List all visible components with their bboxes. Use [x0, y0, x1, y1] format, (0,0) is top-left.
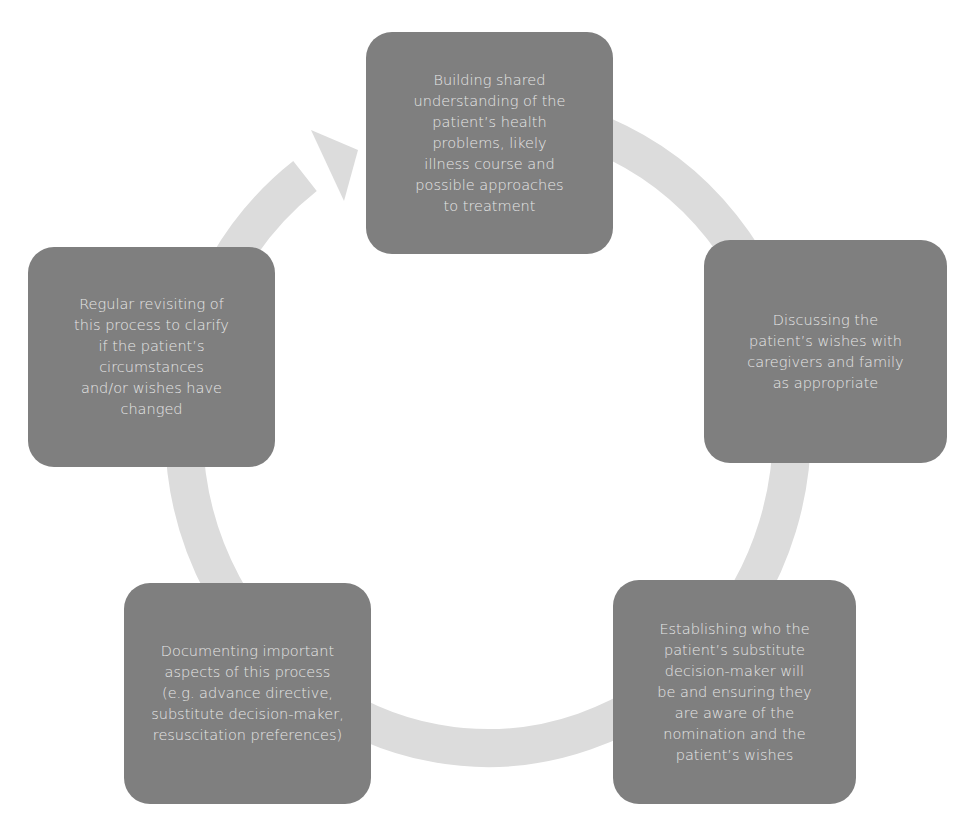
step-text: Establishing who the patient’s substitut… [657, 619, 811, 766]
step-shared-understanding: Building shared understanding of the pat… [366, 32, 613, 254]
step-text: Regular revisiting of this process to cl… [74, 294, 229, 420]
step-text: Building shared understanding of the pat… [414, 70, 566, 217]
step-documenting: Documenting important aspects of this pr… [124, 583, 371, 804]
step-substitute-decision-maker: Establishing who the patient’s substitut… [613, 580, 856, 804]
step-text: Documenting important aspects of this pr… [151, 641, 344, 746]
step-discuss-wishes: Discussing the patient’s wishes with car… [704, 240, 947, 463]
step-text: Discussing the patient’s wishes with car… [747, 310, 903, 394]
cycle-arrowhead-icon [311, 130, 358, 201]
step-regular-revisiting: Regular revisiting of this process to cl… [28, 247, 275, 467]
